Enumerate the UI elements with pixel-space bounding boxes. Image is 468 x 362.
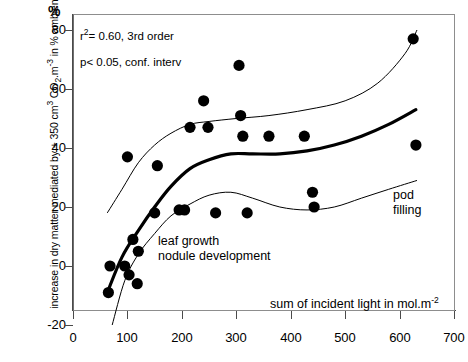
- scatter-point: [149, 207, 160, 218]
- scatter-point: [307, 187, 318, 198]
- pod-filling-note: pod filling: [393, 188, 422, 218]
- scatter-point: [410, 139, 421, 150]
- x-axis-title: sum of incident light in mol.m-2: [270, 295, 439, 311]
- scatter-point: [210, 207, 221, 218]
- scatter-point: [152, 160, 163, 171]
- scatter-point: [184, 122, 195, 133]
- scatter-point: [408, 33, 419, 44]
- leaf-growth-note: leaf growth nodule development: [158, 234, 271, 264]
- chart-canvas: increase in dry matter mediated by + 350…: [0, 0, 468, 362]
- scatter-point: [202, 122, 213, 133]
- scatter-point: [123, 269, 134, 280]
- scatter-point: [309, 201, 320, 212]
- scatter-point: [103, 287, 114, 298]
- scatter-point: [237, 131, 248, 142]
- scatter-point: [179, 204, 190, 215]
- scatter-point: [104, 260, 115, 271]
- scatter-point: [263, 131, 274, 142]
- x-axis-title-sup1: -2: [431, 295, 439, 305]
- statistics-note: r2= 0.60, 3rd order p< 0.05, conf. inter…: [80, 12, 181, 70]
- scatter-point: [242, 207, 253, 218]
- scatter-point: [235, 110, 246, 121]
- scatter-point: [299, 131, 310, 142]
- scatter-point: [122, 151, 133, 162]
- scatter-point: [198, 95, 209, 106]
- x-axis-title-part1: sum of incident light in mol.m: [270, 297, 431, 311]
- statistics-note-rest: = 0.60, 3rd order: [89, 29, 174, 41]
- statistics-note-line2: p< 0.05, conf. interv: [80, 56, 181, 68]
- scatter-point: [133, 246, 144, 257]
- scatter-point: [132, 278, 143, 289]
- scatter-point: [233, 60, 244, 71]
- scatter-point: [127, 234, 138, 245]
